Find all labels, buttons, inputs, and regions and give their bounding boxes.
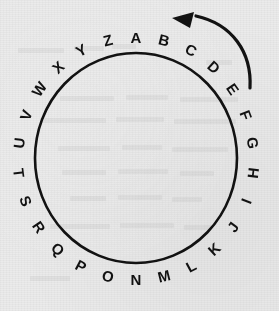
ring-letter-l: L xyxy=(183,256,199,275)
alphabet-circle xyxy=(35,53,237,263)
ring-letter-n: N xyxy=(131,271,142,288)
ring-letter-q: Q xyxy=(48,239,68,260)
ring-letter-d: D xyxy=(204,57,224,77)
ring-letter-f: F xyxy=(236,108,255,123)
figure-canvas: ABCDEFGHIJKLMNOPQRSTUVWXYZ xyxy=(0,0,279,311)
ring-letter-s: S xyxy=(16,193,35,208)
ring-letter-x: X xyxy=(49,57,68,76)
ring-letter-z: Z xyxy=(101,31,114,50)
alphabet-circle-diagram: ABCDEFGHIJKLMNOPQRSTUVWXYZ xyxy=(0,0,279,311)
ring-letter-p: P xyxy=(73,256,90,276)
ring-letter-w: W xyxy=(28,78,51,100)
ring-letter-c: C xyxy=(182,40,200,60)
ring-letter-y: Y xyxy=(73,40,90,60)
alphabet-ring-letters: ABCDEFGHIJKLMNOPQRSTUVWXYZ xyxy=(10,29,262,288)
ring-letter-o: O xyxy=(100,266,116,285)
ring-letter-g: G xyxy=(244,136,262,150)
ring-letter-e: E xyxy=(223,80,243,98)
ring-letter-i: I xyxy=(237,196,254,206)
counterclockwise-arrow-curve xyxy=(196,16,250,88)
ring-letter-b: B xyxy=(157,30,172,49)
ring-letter-r: R xyxy=(29,218,49,237)
ring-letter-u: U xyxy=(10,137,28,150)
ring-letter-m: M xyxy=(156,266,172,286)
ring-letter-j: J xyxy=(224,219,243,236)
ring-letter-h: H xyxy=(244,167,262,180)
ring-letter-a: A xyxy=(131,29,142,46)
ring-letter-t: T xyxy=(10,167,28,178)
ring-letter-v: V xyxy=(16,107,35,122)
counterclockwise-arrow-head xyxy=(172,12,194,28)
ring-letter-k: K xyxy=(204,239,224,259)
